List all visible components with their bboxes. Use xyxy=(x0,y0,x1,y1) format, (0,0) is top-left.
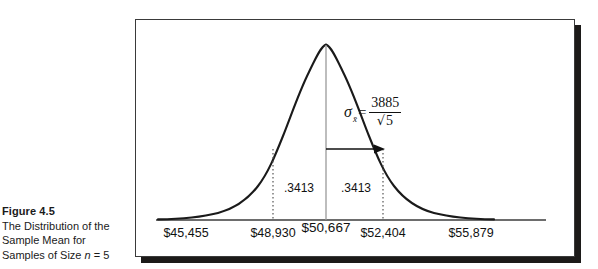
xtick-label-2: $50,667 xyxy=(302,220,351,235)
sigma-formula-annotation: σx̄ = 3885 √5 xyxy=(344,96,401,128)
xtick-label-4: $55,879 xyxy=(448,226,493,240)
figure-panel: .3413 .3413 σx̄ = 3885 √5 $45,455 $48,93… xyxy=(135,19,575,257)
area-label-right: .3413 xyxy=(341,181,371,195)
plot-svg xyxy=(136,20,576,258)
fraction-numerator: 3885 xyxy=(369,96,401,112)
caption-line-3-prefix: Samples of Size xyxy=(2,249,85,261)
sigma-symbol: σx̄ xyxy=(344,103,353,121)
caption-line-1: The Distribution of the xyxy=(2,219,130,234)
sigma-arrow-head xyxy=(374,145,385,154)
equals-sign: = xyxy=(358,104,366,121)
sigma-fraction: 3885 √5 xyxy=(369,96,401,128)
caption-line-3-suffix: = 5 xyxy=(91,249,110,261)
caption-line-3: Samples of Size n = 5 xyxy=(2,248,130,263)
fraction-denominator: √5 xyxy=(375,113,396,129)
xtick-label-3: $52,404 xyxy=(360,226,405,240)
xtick-label-1: $48,930 xyxy=(250,226,295,240)
sigma-subscript: x̄ xyxy=(353,114,357,124)
area-label-left: .3413 xyxy=(284,181,314,195)
caption-line-2: Sample Mean for xyxy=(2,233,130,248)
figure-number: Figure 4.5 xyxy=(2,204,130,219)
xtick-label-0: $45,455 xyxy=(163,226,208,240)
radicand: 5 xyxy=(385,112,394,128)
normal-distribution-plot: .3413 .3413 σx̄ = 3885 √5 $45,455 $48,93… xyxy=(136,20,576,258)
radical-icon: √ xyxy=(377,113,385,128)
figure-caption: Figure 4.5 The Distribution of the Sampl… xyxy=(2,204,130,262)
